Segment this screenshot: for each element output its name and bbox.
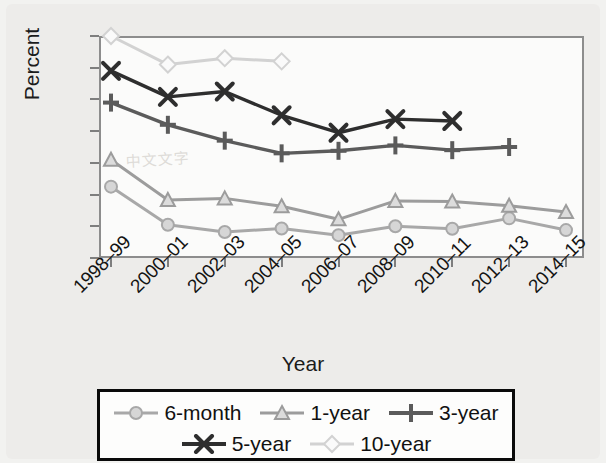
x-axis-title: Year (0, 352, 606, 376)
circle-marker (389, 220, 401, 232)
legend-item-6-month[interactable]: 6-month (113, 401, 241, 425)
plus-marker (387, 136, 403, 154)
series-1-year (104, 153, 573, 226)
triangle-marker (259, 403, 305, 423)
series-3-year (103, 94, 517, 163)
plus-marker (501, 138, 517, 156)
y-tick-mark (90, 194, 99, 196)
series-5-year (103, 63, 460, 141)
legend-label: 6-month (164, 401, 241, 425)
circle-marker (503, 212, 515, 224)
circle-marker (276, 223, 288, 235)
y-axis-title: Percent (20, 0, 44, 134)
circle-marker (219, 226, 231, 238)
plus-marker (274, 144, 290, 162)
x-marker (103, 63, 119, 79)
plus-marker (160, 116, 176, 134)
diamond-marker (309, 434, 355, 454)
diamond-marker (309, 434, 355, 454)
chart-legend: 6-month1-year3-year5-year10-year (97, 389, 515, 461)
circle-marker (333, 229, 345, 241)
series-line (111, 103, 509, 154)
legend-row: 5-year10-year (100, 428, 512, 459)
y-tick-mark (90, 67, 99, 69)
plus-marker (388, 403, 434, 423)
circle-marker (162, 219, 174, 231)
y-tick-mark (90, 162, 99, 164)
legend-label: 3-year (439, 401, 499, 425)
legend-item-3-year[interactable]: 3-year (388, 401, 499, 425)
legend-label: 10-year (360, 432, 431, 456)
circle-marker (130, 407, 142, 419)
plus-marker (403, 404, 419, 422)
diamond-marker (103, 28, 119, 44)
series-line (111, 36, 282, 65)
plus-marker (217, 132, 233, 150)
plus-marker (388, 403, 434, 423)
circle-marker (113, 403, 159, 423)
y-tick-mark (90, 98, 99, 100)
legend-item-1-year[interactable]: 1-year (259, 401, 370, 425)
x-marker (181, 434, 227, 454)
y-tick-mark (90, 130, 99, 132)
diamond-marker (274, 53, 290, 69)
diamond-marker (324, 436, 340, 452)
triangle-marker (104, 153, 118, 166)
x-marker (181, 434, 227, 454)
y-tick-mark (90, 35, 99, 37)
triangle-marker (259, 403, 305, 423)
plus-marker (331, 142, 347, 160)
circle-marker (113, 403, 159, 423)
circle-marker (560, 224, 572, 236)
legend-item-10-year[interactable]: 10-year (309, 432, 431, 456)
circle-marker (105, 181, 117, 193)
plus-marker (444, 141, 460, 159)
legend-row: 6-month1-year3-year (100, 397, 512, 428)
circle-marker (446, 223, 458, 235)
legend-label: 5-year (232, 432, 292, 456)
y-tick-mark (90, 225, 99, 227)
legend-label: 1-year (310, 401, 370, 425)
diamond-marker (217, 50, 233, 66)
legend-item-5-year[interactable]: 5-year (181, 432, 292, 456)
series-layer (99, 36, 584, 258)
series-10-year (103, 28, 290, 73)
plus-marker (103, 94, 119, 112)
line-chart: 中文文字 Percent 8070605040302010 1998–99200… (0, 0, 606, 380)
diamond-marker (160, 57, 176, 73)
scanned-page: 中文文字 Percent 8070605040302010 1998–99200… (0, 0, 606, 463)
